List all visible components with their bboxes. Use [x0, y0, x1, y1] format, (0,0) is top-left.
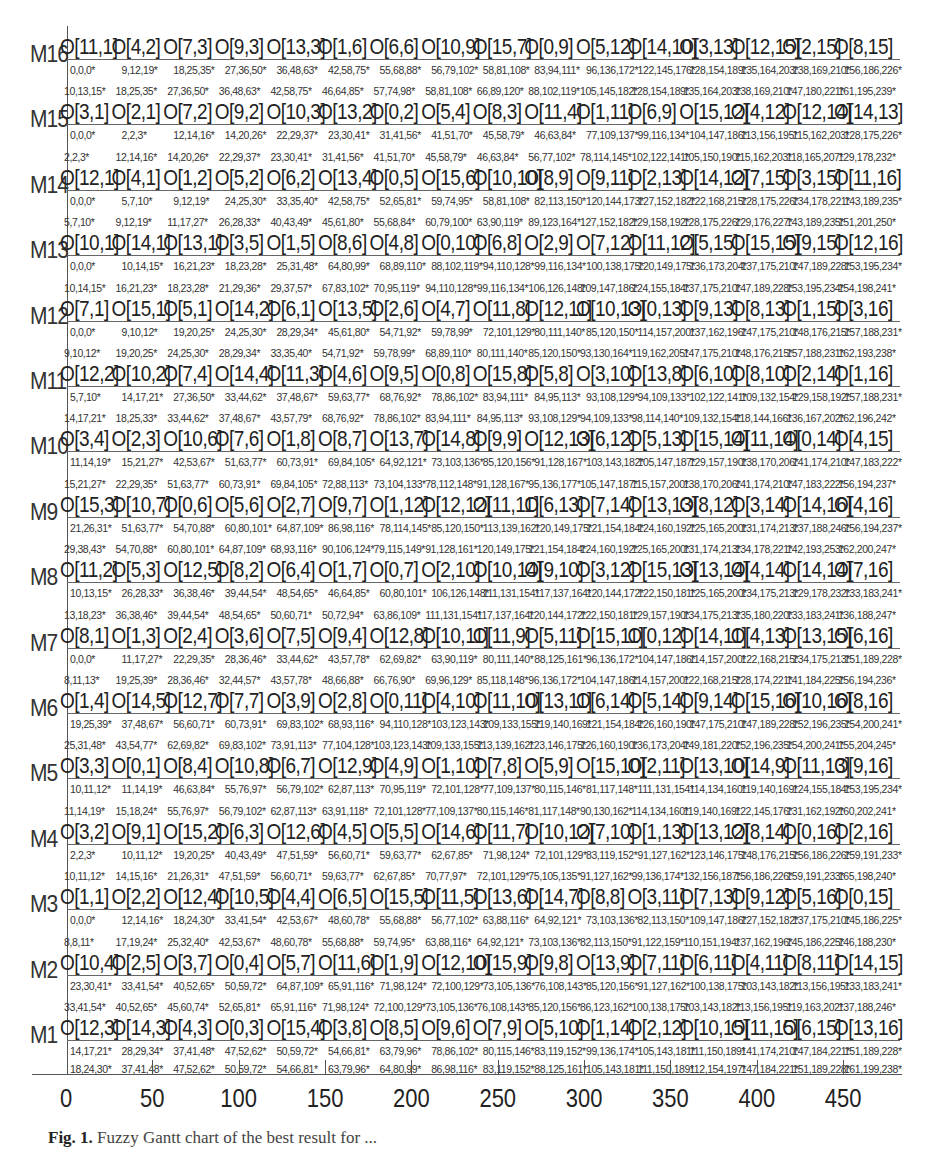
operation-block: O[2,5] [112, 950, 164, 977]
x-tick-mark [843, 1060, 844, 1074]
fuzzy-time-label: 129,157,190* [689, 456, 741, 468]
operation-block: O[15,15] [731, 231, 783, 258]
fuzzy-time-label: 128,175,226* [844, 129, 896, 141]
fuzzy-time-label: 19,20,25* [173, 849, 225, 861]
fuzzy-time-label: 91,127,162* [638, 980, 690, 992]
fuzzy-time-label: 29,37,57* [270, 282, 322, 294]
operation-block: O[0,6] [163, 492, 215, 519]
fuzzy-time-label: 109,132,154* [741, 391, 793, 403]
fuzzy-time-label: 33,44,62* [167, 412, 219, 424]
operation-block: O[7,11] [628, 950, 680, 977]
fuzzy-time-label: 120,149,175* [638, 260, 690, 272]
operation-block: O[10,2] [112, 362, 164, 389]
operation-bars: O[12,2]O[10,2]O[7,4]O[14,4]O[11,3]O[4,6]… [60, 363, 886, 387]
fuzzy-time-label: 24,25,30* [225, 195, 277, 207]
operation-block: O[11,16] [834, 165, 886, 192]
operation-block: O[6,2] [266, 165, 318, 192]
fuzzy-start-times: 0,0,0*12,14,16*18,24,30*33,41,54*42,53,6… [70, 914, 896, 926]
operation-block: O[6,15] [782, 1016, 834, 1043]
fuzzy-time-label: 121,154,184* [528, 543, 580, 555]
fuzzy-time-label: 9,12,19* [122, 64, 174, 76]
fuzzy-time-label: 103,143,182* [586, 456, 638, 468]
operation-block: O[1,11] [576, 100, 628, 127]
fuzzy-time-label: 129,178,232* [792, 587, 844, 599]
fuzzy-time-label: 33,41,54* [122, 980, 174, 992]
fuzzy-time-label: 85,120,156* [528, 1001, 580, 1013]
fuzzy-time-label: 79,115,149* [374, 543, 426, 555]
fuzzy-time-label: 60,80,101* [225, 522, 277, 534]
operation-block: O[2,12] [628, 1016, 680, 1043]
operation-block: O[1,2] [163, 165, 215, 192]
operation-block: O[12,10] [421, 950, 473, 977]
fuzzy-time-label: 47,52,62* [173, 1063, 225, 1075]
fuzzy-time-label: 153,195,234* [844, 260, 896, 272]
fuzzy-time-label: 32,44,57* [219, 674, 271, 686]
fuzzy-time-label: 18,24,30* [70, 1063, 122, 1075]
fuzzy-time-label: 138,169,210* [735, 85, 787, 97]
operation-block: O[1,8] [266, 427, 318, 454]
fuzzy-time-label: 33,41,54* [64, 1001, 116, 1013]
fuzzy-time-label: 126,160,190* [638, 718, 690, 730]
fuzzy-time-label: 59,78,99* [374, 347, 426, 359]
operation-block: O[13,12] [679, 819, 731, 846]
fuzzy-time-label: 40,52,65* [116, 1001, 168, 1013]
fuzzy-time-label: 50,72,94* [322, 609, 374, 621]
operation-block: O[7,9] [473, 1016, 525, 1043]
operation-block: O[10,9] [421, 35, 473, 62]
operation-block: O[0,16] [782, 819, 834, 846]
fuzzy-time-label: 43,57,79* [270, 412, 322, 424]
operation-block: O[5,13] [628, 427, 680, 454]
fuzzy-time-label: 124,160,192* [580, 543, 632, 555]
fuzzy-time-label: 145,186,225* [844, 914, 896, 926]
fuzzy-time-label: 19,25,39* [70, 718, 122, 730]
fuzzy-time-label: 99,136,174* [632, 870, 684, 882]
fuzzy-time-label: 28,29,34* [276, 326, 328, 338]
fuzzy-time-label: 114,157,200* [632, 674, 684, 686]
fuzzy-time-label: 118,165,207* [786, 151, 838, 163]
operation-block: O[6,12] [576, 427, 628, 454]
fuzzy-time-label: 28,36,46* [225, 653, 277, 665]
operation-block: O[3,16] [834, 296, 886, 323]
operation-block: O[15,7] [473, 35, 525, 62]
operation-block: O[13,10] [679, 754, 731, 781]
fuzzy-time-label: 151,189,228* [792, 1063, 844, 1075]
operation-block: O[8,11] [782, 950, 834, 977]
operation-block: O[0,14] [782, 427, 834, 454]
x-tick-label: 150 [307, 1084, 344, 1114]
fuzzy-time-label: 114,134,160* [632, 805, 684, 817]
fuzzy-time-label: 103,143,182* [741, 980, 793, 992]
fuzzy-time-label: 147,184,221* [741, 1063, 793, 1075]
fuzzy-time-label: 151,189,228* [844, 653, 896, 665]
operation-block: O[15,2] [163, 819, 215, 846]
fuzzy-time-label: 8,8,11* [64, 936, 116, 948]
fuzzy-time-label: 48,66,88* [322, 674, 374, 686]
operation-block: O[12,11] [524, 296, 576, 323]
fuzzy-time-label: 91,127,162* [638, 849, 690, 861]
fuzzy-time-label: 83,94,111* [483, 391, 535, 403]
operation-block: O[15,4] [266, 1016, 318, 1043]
fuzzy-time-label: 22,29,35* [173, 653, 225, 665]
fuzzy-time-label: 62,67,85* [374, 870, 426, 882]
fuzzy-time-label: 0,0,0* [70, 129, 122, 141]
fuzzy-time-label: 14,17,21* [70, 1045, 122, 1057]
operation-block: O[9,14] [679, 689, 731, 716]
fuzzy-time-label: 28,29,34* [122, 1045, 174, 1057]
fuzzy-time-label: 15,18,24* [116, 805, 168, 817]
fuzzy-time-label: 86,98,116* [328, 522, 380, 534]
fuzzy-end-times: 33,41,54*40,52,65*45,60,74*52,65,81*65,9… [64, 1001, 890, 1013]
fuzzy-time-label: 65,91,116* [328, 980, 380, 992]
fuzzy-time-label: 46,64,85* [322, 85, 374, 97]
operation-block: O[0,10] [421, 231, 473, 258]
operation-block: O[5,5] [370, 819, 422, 846]
operation-block: O[14,9] [731, 754, 783, 781]
fuzzy-time-label: 156,186,226* [735, 870, 787, 882]
operation-block: O[5,11] [524, 623, 576, 650]
fuzzy-time-label: 42,58,75* [270, 85, 322, 97]
fuzzy-time-label: 103,143,182* [683, 1001, 735, 1013]
operation-block: O[14,2] [215, 296, 267, 323]
fuzzy-time-label: 86,123,162* [580, 1001, 632, 1013]
fuzzy-time-label: 157,188,231* [844, 391, 896, 403]
fuzzy-time-label: 119,140,169* [741, 783, 793, 795]
operation-bars: O[8,1]O[1,3]O[2,4]O[3,6]O[7,5]O[9,4]O[12… [60, 625, 886, 649]
fuzzy-time-label: 162,196,242* [838, 412, 890, 424]
